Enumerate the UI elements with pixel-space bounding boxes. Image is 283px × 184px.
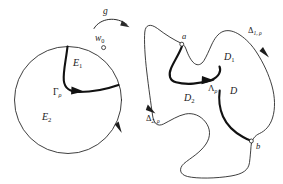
label-delta1-subscript: 1, ρ [253,30,261,36]
label-crosscut-lambda-rho: Λρ [208,84,217,95]
jordan-domain-group [145,25,275,178]
label-point-a: a [182,32,186,41]
label-region-e2-subscript: 2 [48,116,51,123]
figure-canvas: g w0 E1 Γρ E2 a Δ1, ρ D1 Λρ D D2 Δ2, ρ b [0,0,283,184]
label-subdomain-d1: D1 [224,52,235,63]
label-subdomain-d1-subscript: 1 [231,56,234,63]
disk-boundary-circle [15,47,122,154]
label-map-g: g [103,7,108,17]
label-crosscut-gamma-rho: Γρ [53,88,62,98]
crosscut-gamma-arrowhead [71,86,84,94]
label-domain-d: D [230,86,237,96]
point-a-marker [180,42,184,46]
crosscut-gamma-rho-arc [64,47,119,92]
label-boundary-arc-delta2-rho: Δ2, ρ [146,114,160,124]
label-point-w0-subscript: 0 [101,37,104,44]
unit-disk-group [15,19,130,153]
label-region-e1-subscript: 1 [79,62,82,69]
boundary-arc-upper-arrowhead [260,47,270,58]
crosscut-lambda-rho-arc [170,46,221,84]
label-boundary-arc-delta1-rho: Δ1, ρ [248,26,262,36]
figure-vector-graphics [0,0,283,184]
label-subdomain-d2: D2 [184,93,195,104]
label-region-e2: E2 [42,112,51,123]
label-subdomain-d2-subscript: 2 [191,97,194,104]
point-w0-marker [102,46,106,50]
label-crosscut-gamma-subscript: ρ [59,91,62,98]
label-point-w0: w0 [95,34,104,44]
point-b-marker [249,139,253,143]
thick-arc-to-point-b [219,91,250,141]
label-point-b: b [256,142,260,151]
label-region-e1: E1 [73,58,82,69]
domain-boundary-curve [145,25,275,178]
label-crosscut-lambda-subscript: ρ [215,88,218,94]
label-delta2-subscript: 2, ρ [151,118,159,124]
